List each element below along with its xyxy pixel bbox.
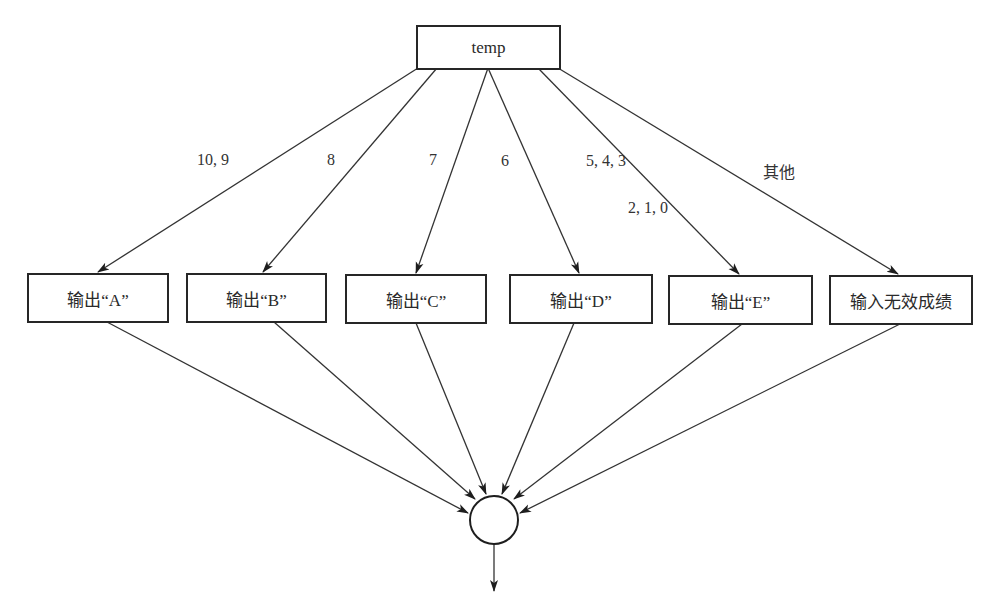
output-label-a: 输出“A” [67, 286, 128, 311]
output-label-invalid: 输入无效成绩 [850, 288, 952, 313]
edge-c-to-merge [416, 323, 486, 494]
branch-label-e-line1: 5, 4, 3 [586, 153, 626, 169]
edge-temp-to-a [98, 68, 418, 272]
edge-temp-to-e [538, 68, 739, 274]
output-label-c: 输出“C” [386, 287, 446, 312]
edge-temp-to-d [488, 68, 579, 273]
output-label-b: 输出“B” [226, 286, 286, 311]
branch-label-d: 6 [501, 153, 509, 169]
output-box-d: 输出“D” [509, 274, 653, 324]
output-box-e: 输出“E” [668, 275, 813, 325]
edge-temp-to-b [263, 68, 437, 272]
output-box-a: 输出“A” [27, 273, 169, 323]
branch-label-other: 其他 [763, 165, 795, 181]
output-label-d: 输出“D” [550, 287, 611, 312]
output-box-c: 输出“C” [345, 274, 487, 324]
edge-temp-to-c [416, 68, 488, 273]
edge-other-to-merge [520, 324, 900, 513]
edge-b-to-merge [274, 322, 475, 499]
edge-e-to-merge [514, 324, 742, 499]
merge-connector-circle [469, 495, 519, 545]
edge-a-to-merge [107, 322, 468, 513]
edge-d-to-merge [502, 323, 574, 494]
merge-edges [107, 322, 900, 513]
branch-label-b: 8 [327, 152, 335, 168]
branch-label-c: 7 [429, 152, 437, 168]
edge-temp-to-other [558, 68, 898, 274]
branch-label-a: 10, 9 [197, 152, 229, 168]
output-box-b: 输出“B” [186, 273, 327, 323]
output-label-e: 输出“E” [711, 288, 770, 313]
branch-label-e-line2: 2, 1, 0 [628, 200, 668, 216]
decision-box-temp: temp [416, 25, 561, 70]
output-box-invalid: 输入无效成绩 [829, 275, 973, 325]
decision-label: temp [472, 38, 506, 58]
